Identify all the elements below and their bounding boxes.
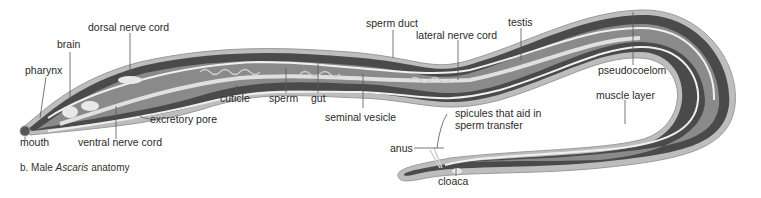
label-cuticle: cuticle <box>220 92 250 104</box>
caption-species: Ascaris <box>56 162 89 173</box>
label-cloaca: cloaca <box>438 175 468 187</box>
figure-caption: b. Male Ascaris anatomy <box>20 162 130 173</box>
label-muscle-layer: muscle layer <box>596 89 655 101</box>
label-gut: gut <box>311 92 326 104</box>
brain-shape <box>62 106 78 118</box>
mouth-shape <box>20 126 30 136</box>
label-spicules-line1: spicules that aid in <box>455 107 541 119</box>
nerve-ganglion <box>118 76 142 84</box>
label-mouth: mouth <box>20 136 49 148</box>
label-ventral-nerve-cord: ventral nerve cord <box>78 136 162 148</box>
label-brain: brain <box>57 38 80 50</box>
label-excretory-pore: excretory pore <box>150 113 217 125</box>
label-pseudocoelom: pseudocoelom <box>598 64 666 76</box>
label-spicules-line2: sperm transfer <box>455 119 523 131</box>
cloaca-shape <box>452 168 462 174</box>
label-sperm: sperm <box>269 92 298 104</box>
label-anus: anus <box>390 142 413 154</box>
label-dorsal-nerve-cord: dorsal nerve cord <box>88 21 169 33</box>
label-lateral-nerve-cord: lateral nerve cord <box>416 29 497 41</box>
label-testis: testis <box>508 16 533 28</box>
caption-suffix: anatomy <box>88 162 129 173</box>
label-pharynx: pharynx <box>25 64 62 76</box>
label-seminal-vesicle: seminal vesicle <box>325 111 396 123</box>
pharynx-bulb <box>81 101 99 111</box>
caption-prefix: b. Male <box>20 162 56 173</box>
label-sperm-duct: sperm duct <box>366 17 418 29</box>
